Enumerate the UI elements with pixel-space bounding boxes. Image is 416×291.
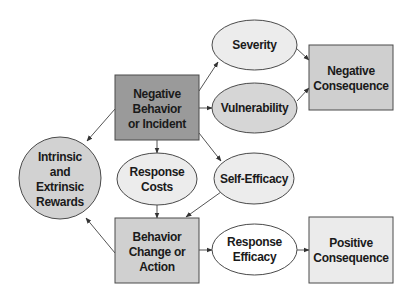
edge-negative-behavior-to-rewards [87,109,115,141]
node-behavior-change: Behavior Change or Action [115,218,199,283]
node-positive-consequence: Positive Consequence [309,217,393,283]
node-label-line: Extrinsic [36,180,85,194]
node-rewards: Intrinsic and Extrinsic Rewards [19,137,101,219]
node-negative-consequence: Negative Consequence [309,45,393,110]
node-response-costs: Response Costs [117,153,197,205]
node-label-line: Negative [133,87,181,101]
node-response-efficacy: Response Efficacy [212,224,297,275]
node-label-line: Costs [141,180,173,194]
node-label-line: Vulnerability [221,101,289,115]
node-label-line: Change or [129,245,186,259]
edge-behavior-change-to-rewards [86,218,115,253]
node-label-line: Consequence [313,79,389,93]
node-label-line: Intrinsic [38,150,83,164]
node-label-line: Behavior [133,230,183,244]
edge-negative-behavior-to-self-efficacy [199,133,221,161]
node-vulnerability: Vulnerability [212,83,297,133]
node-label-line: or Incident [128,117,186,131]
node-label-line: Positive [329,236,373,250]
edge-severity-to-negative-consequence [296,48,309,60]
node-label-line: Response [227,235,283,249]
node-label-line: Behavior [133,102,183,116]
edge-vulnerability-to-negative-consequence [297,88,309,101]
node-label-line: Rewards [36,195,85,209]
node-severity: Severity [212,20,297,70]
edge-negative-behavior-to-severity [199,62,218,91]
node-self-efficacy: Self-Efficacy [214,153,294,204]
node-label-line: Severity [232,38,277,52]
node-negative-behavior: Negative Behavior or Incident [115,75,199,140]
node-label-line: Consequence [313,251,389,265]
diagram-canvas: Negative Behavior or Incident Severity V… [0,0,416,291]
node-label-line: and [50,165,70,179]
node-label-line: Efficacy [233,250,277,264]
edge-self-efficacy-to-behavior-change [186,192,221,217]
node-label-line: Action [139,260,175,274]
node-label-line: Self-Efficacy [220,172,289,186]
node-label-line: Negative [327,64,375,78]
node-label-line: Response [130,165,186,179]
